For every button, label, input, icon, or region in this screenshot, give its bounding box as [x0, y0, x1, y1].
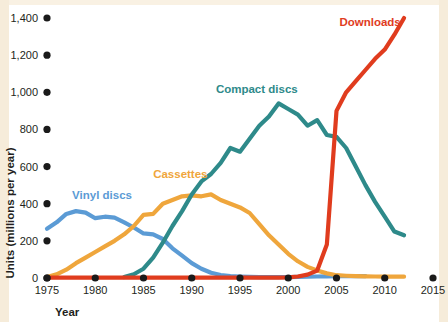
y-axis: 02004006008001,0001,2001,400: [10, 12, 50, 284]
y-tick-label: 400: [20, 198, 38, 210]
y-tick-dot: [43, 274, 50, 281]
x-tick-dot: [381, 274, 388, 281]
x-tick-label: 1980: [83, 284, 107, 296]
y-tick-dot: [43, 163, 50, 170]
chart-figure: 197519801985199019952000200520102015 020…: [0, 0, 448, 322]
y-tick-dot: [43, 14, 50, 21]
y-tick-dot: [43, 52, 50, 59]
y-tick-label: 800: [20, 123, 38, 135]
y-tick-dot: [43, 126, 50, 133]
series-lines: [47, 18, 404, 278]
x-axis: 197519801985199019952000200520102015: [35, 274, 445, 296]
y-tick-label: 0: [32, 272, 38, 284]
series-line-downloads: [47, 18, 404, 278]
series-label-compact-discs: Compact discs: [216, 83, 298, 95]
y-tick-dot: [43, 237, 50, 244]
series-label-downloads: Downloads: [339, 16, 400, 28]
y-tick-label: 1,200: [10, 49, 38, 61]
series-line-compact-discs: [124, 103, 404, 277]
x-tick-label: 1985: [131, 284, 155, 296]
x-tick-label: 2010: [373, 284, 397, 296]
x-tick-label: 2015: [421, 284, 445, 296]
y-tick-label: 200: [20, 235, 38, 247]
x-tick-label: 2005: [324, 284, 348, 296]
y-tick-dot: [43, 89, 50, 96]
y-tick-label: 1,000: [10, 86, 38, 98]
y-axis-title: Units (millions per year): [4, 147, 16, 278]
x-tick-dot: [140, 274, 147, 281]
series-label-vinyl-discs: Vinyl discs: [72, 189, 132, 201]
x-tick-dot: [429, 274, 436, 281]
x-tick-dot: [236, 274, 243, 281]
x-tick-label: 1975: [35, 284, 59, 296]
line-chart: 197519801985199019952000200520102015 020…: [0, 0, 448, 322]
y-tick-dot: [43, 200, 50, 207]
x-tick-label: 1995: [228, 284, 252, 296]
x-tick-dot: [285, 274, 292, 281]
x-tick-dot: [92, 274, 99, 281]
y-tick-label: 600: [20, 161, 38, 173]
x-axis-title: Year: [55, 306, 80, 318]
series-label-cassettes: Cassettes: [153, 168, 207, 180]
x-tick-label: 1990: [180, 284, 204, 296]
x-tick-label: 2000: [276, 284, 300, 296]
x-tick-dot: [188, 274, 195, 281]
y-tick-label: 1,400: [10, 12, 38, 24]
series-line-cassettes: [47, 194, 404, 277]
x-tick-dot: [333, 274, 340, 281]
series-labels: Vinyl discsCassettesCompact discsDownloa…: [72, 16, 401, 201]
